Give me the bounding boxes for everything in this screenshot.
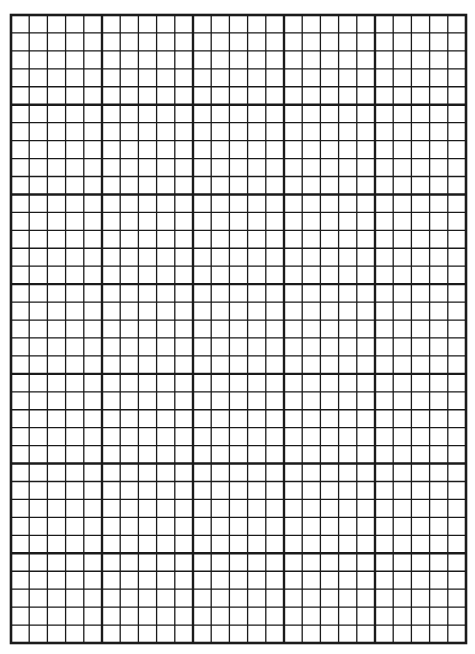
sheet-border <box>11 15 466 643</box>
grid-canvas <box>0 0 475 654</box>
